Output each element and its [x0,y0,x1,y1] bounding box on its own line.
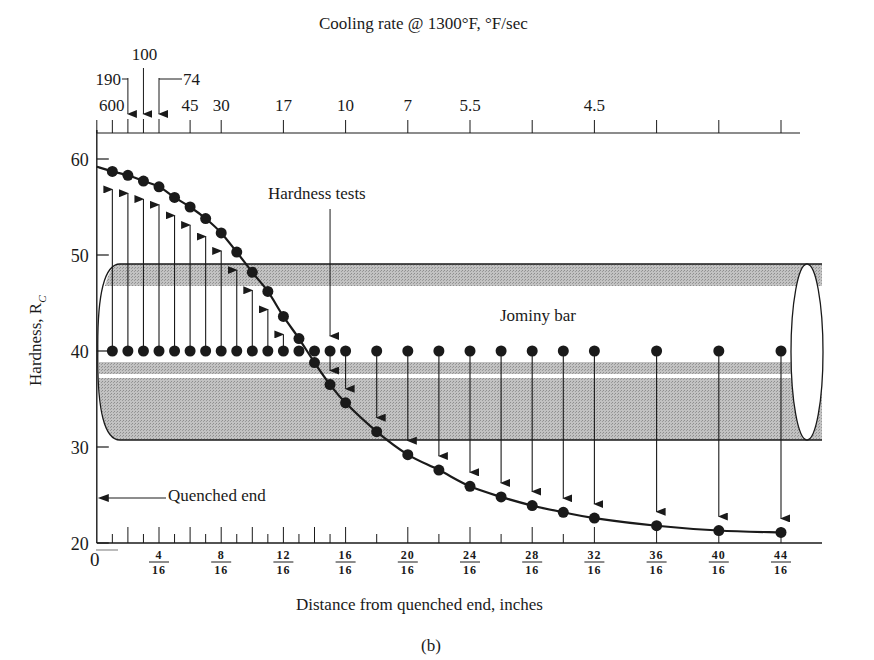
x-tick-denominator: 16 [152,563,166,577]
x-tick-denominator: 16 [339,563,353,577]
bar-shading-top [105,264,822,286]
test-point [558,346,569,357]
top-tick-label: 17 [275,96,293,115]
test-point [651,346,662,357]
test-point [713,346,724,357]
x-tick-numerator: 16 [339,548,353,562]
test-point [247,346,258,357]
data-point [325,379,336,390]
test-point [402,346,413,357]
y-axis-label: Hardness, RC [26,266,47,416]
data-point [169,192,180,203]
jominy-bar-annotation: Jominy bar [500,306,576,326]
data-point [465,481,476,492]
test-point [496,346,507,357]
x-tick-denominator: 16 [587,563,601,577]
x-tick-numerator: 32 [587,548,601,562]
data-point [713,525,724,536]
data-point [433,465,444,476]
top-tick-label: 7 [404,96,413,115]
x-tick-denominator: 16 [276,563,290,577]
data-point [776,527,787,538]
test-point [340,346,351,357]
x-tick-denominator: 16 [650,563,664,577]
top-tick-label: 4.5 [584,96,605,115]
hardness-tests-annotation: Hardness tests [268,184,366,204]
test-point [122,346,133,357]
y-tick-label: 50 [71,246,89,266]
test-point [107,346,118,357]
x-tick-numerator: 28 [525,548,539,562]
y-tick-label: 60 [71,150,89,170]
data-point [231,247,242,258]
x-tick-label: 0 [90,549,100,570]
x-tick-numerator: 24 [463,548,477,562]
y-tick-label: 20 [71,534,89,554]
test-point [589,346,600,357]
data-point [558,507,569,518]
x-tick-numerator: 12 [276,548,290,562]
y-tick-label: 30 [71,438,89,458]
data-point [122,170,133,181]
data-point [216,227,227,238]
data-point [309,357,320,368]
y-tick-label: 40 [71,342,89,362]
test-point [293,346,304,357]
test-point [325,346,336,357]
test-point [185,346,196,357]
figure-caption: (b) [421,636,441,656]
data-point [138,176,149,187]
top-tick-label: 190 [95,70,121,89]
bar-shading-mid [99,362,822,374]
quenched-end-annotation: Quenched end [168,486,266,506]
top-tick-label: 10 [337,96,354,115]
x-tick-denominator: 16 [774,563,788,577]
top-tick-label: 74 [183,70,201,89]
test-point [154,346,165,357]
quenched-end-arrowhead [98,494,109,502]
top-tick-label: 30 [213,96,230,115]
x-tick-denominator: 16 [214,563,228,577]
data-point [340,397,351,408]
test-point [138,346,149,357]
jominy-chart: 2030405060041681612161616201624162816321… [0,0,874,660]
data-point [293,333,304,344]
data-point [371,426,382,437]
x-tick-numerator: 8 [218,548,225,562]
x-tick-denominator: 16 [401,563,415,577]
data-point [154,181,165,192]
x-tick-numerator: 44 [774,548,788,562]
test-point [200,346,211,357]
chart-canvas: 2030405060041681612161616201624162816321… [0,0,874,660]
x-tick-denominator: 16 [525,563,539,577]
top-tick-label: 5.5 [459,96,480,115]
top-tick-label: 45 [182,96,199,115]
top-tick-label: 600 [99,96,125,115]
bar-shading-bottom [99,378,822,440]
x-tick-numerator: 4 [156,548,163,562]
data-point [185,202,196,213]
x-tick-denominator: 16 [463,563,477,577]
data-point [651,520,662,531]
test-point [371,346,382,357]
x-tick-denominator: 16 [712,563,726,577]
data-point [527,500,538,511]
test-point [278,346,289,357]
data-point [278,311,289,322]
test-point [776,346,787,357]
x-tick-numerator: 20 [401,548,415,562]
test-point [262,346,273,357]
x-tick-numerator: 40 [712,548,726,562]
x-axis-label: Distance from quenched end, inches [296,595,543,615]
data-point [262,286,273,297]
bar-end-face [791,264,823,440]
data-point [107,166,118,177]
data-point [200,213,211,224]
data-point [247,267,258,278]
test-point [169,346,180,357]
top-axis-title: Cooling rate @ 1300°F, °F/sec [319,14,528,34]
data-point [402,449,413,460]
x-tick-numerator: 36 [650,548,664,562]
top-tick-label: 100 [132,45,158,64]
test-point [465,346,476,357]
